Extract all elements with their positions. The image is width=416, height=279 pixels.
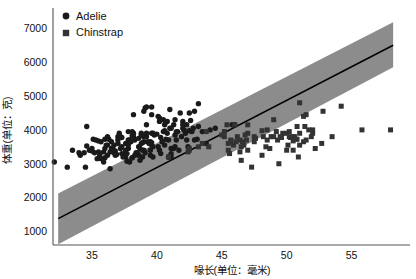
data-point-adelie — [150, 154, 155, 159]
data-point-chinstrap — [295, 124, 300, 129]
data-point-adelie — [158, 151, 163, 156]
data-point-adelie — [165, 131, 170, 136]
data-point-chinstrap — [321, 109, 326, 114]
data-point-chinstrap — [237, 149, 242, 154]
data-point-adelie — [180, 125, 185, 130]
y-tick-1000: 1000 — [24, 225, 48, 237]
data-point-adelie — [104, 142, 109, 147]
data-point-adelie — [107, 166, 112, 171]
data-point-adelie — [192, 109, 197, 114]
data-point-adelie — [213, 125, 218, 130]
data-point-adelie — [84, 124, 89, 129]
data-point-chinstrap — [245, 122, 250, 127]
legend-label-chinstrap: Chinstrap — [76, 26, 123, 38]
data-point-chinstrap — [274, 129, 279, 134]
data-point-adelie — [87, 148, 92, 153]
y-tick-5000: 5000 — [24, 90, 48, 102]
data-point-adelie — [167, 107, 172, 112]
data-point-adelie — [83, 164, 88, 169]
data-point-adelie — [155, 144, 160, 149]
data-point-adelie — [131, 112, 136, 117]
data-point-chinstrap — [291, 148, 296, 153]
data-point-chinstrap — [224, 122, 229, 127]
data-point-adelie — [196, 101, 201, 106]
data-point-adelie — [94, 156, 99, 161]
data-point-chinstrap — [260, 153, 265, 158]
data-point-chinstrap — [359, 127, 364, 132]
data-point-adelie — [149, 112, 154, 117]
data-point-chinstrap — [297, 143, 302, 148]
data-point-chinstrap — [339, 104, 344, 109]
data-point-adelie — [137, 146, 142, 151]
data-point-adelie — [196, 124, 201, 129]
data-point-adelie — [149, 104, 154, 109]
data-point-chinstrap — [271, 117, 276, 122]
data-point-adelie — [159, 139, 164, 144]
data-point-chinstrap — [239, 158, 244, 163]
data-point-chinstrap — [200, 141, 205, 146]
data-point-chinstrap — [219, 132, 224, 137]
data-point-adelie — [163, 120, 168, 125]
data-point-chinstrap — [284, 148, 289, 153]
data-point-adelie — [172, 117, 177, 122]
data-point-chinstrap — [388, 127, 393, 132]
data-point-chinstrap — [228, 138, 233, 143]
data-point-chinstrap — [313, 146, 318, 151]
penguin-scatter-figure: 3540455055 1000200030004000500060007000 … — [0, 0, 416, 279]
legend-label-adelie: Adelie — [76, 10, 107, 22]
data-point-adelie — [81, 150, 86, 155]
data-point-chinstrap — [241, 143, 246, 148]
data-point-chinstrap — [297, 131, 302, 136]
data-point-chinstrap — [319, 141, 324, 146]
x-axis-title: 喙长(单位：毫米) — [194, 264, 271, 276]
data-point-adelie — [179, 134, 184, 139]
data-point-chinstrap — [187, 146, 192, 151]
y-tick-2000: 2000 — [24, 191, 48, 203]
data-point-adelie — [128, 139, 133, 144]
plot-canvas: 3540455055 1000200030004000500060007000 … — [0, 0, 416, 279]
data-point-adelie — [132, 153, 137, 158]
data-point-chinstrap — [227, 151, 232, 156]
data-point-adelie — [144, 122, 149, 127]
data-point-chinstrap — [206, 144, 211, 149]
data-point-adelie — [120, 154, 125, 159]
data-point-adelie — [146, 141, 151, 146]
data-point-adelie — [174, 137, 179, 142]
data-point-chinstrap — [204, 129, 209, 134]
data-point-adelie — [178, 110, 183, 115]
x-tick-35: 35 — [86, 249, 98, 261]
data-point-chinstrap — [244, 138, 249, 143]
data-point-adelie — [184, 137, 189, 142]
y-tick-3000: 3000 — [24, 158, 48, 170]
data-point-adelie — [117, 131, 122, 136]
x-tick-40: 40 — [151, 249, 163, 261]
legend-marker-chinstrap-square-icon — [63, 30, 69, 36]
data-point-adelie — [113, 153, 118, 158]
data-point-chinstrap — [287, 129, 292, 134]
x-tick-45: 45 — [216, 249, 228, 261]
data-point-adelie — [194, 137, 199, 142]
data-point-adelie — [144, 131, 149, 136]
x-tick-50: 50 — [281, 249, 293, 261]
data-point-chinstrap — [297, 100, 302, 105]
y-axis-title: 体重(单位：克) — [1, 97, 13, 164]
data-point-chinstrap — [249, 165, 254, 170]
data-point-chinstrap — [285, 143, 290, 148]
data-point-chinstrap — [330, 134, 335, 139]
data-point-chinstrap — [304, 112, 309, 117]
data-point-chinstrap — [232, 122, 237, 127]
data-point-adelie — [141, 109, 146, 114]
data-point-adelie — [70, 148, 75, 153]
y-tick-4000: 4000 — [24, 124, 48, 136]
y-tick-6000: 6000 — [24, 56, 48, 68]
data-point-adelie — [166, 137, 171, 142]
data-point-chinstrap — [265, 127, 270, 132]
data-point-chinstrap — [166, 154, 171, 159]
data-point-chinstrap — [253, 136, 258, 141]
data-point-chinstrap — [260, 128, 265, 133]
data-point-adelie — [65, 164, 70, 169]
data-point-adelie — [176, 148, 181, 153]
x-tick-55: 55 — [346, 249, 358, 261]
legend-marker-adelie-circle-icon — [63, 13, 70, 20]
data-point-chinstrap — [245, 148, 250, 153]
